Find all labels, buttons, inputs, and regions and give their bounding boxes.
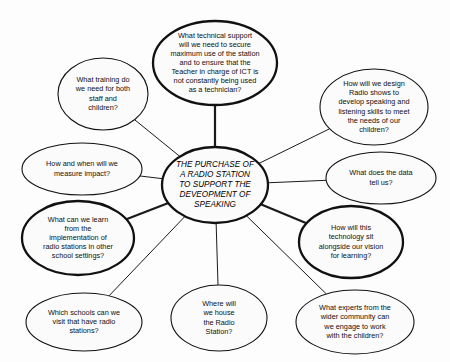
node-radio-show-design[interactable]: How will we designRadio shows todevelop … — [320, 69, 428, 145]
node-measure-impact[interactable]: How and when will wemeasure impact? — [22, 143, 142, 195]
node-visit-schools[interactable]: Which schools can wevisit that have radi… — [26, 293, 142, 351]
node-training[interactable]: What training dowe need for bothstaff an… — [58, 58, 148, 130]
node-house-station[interactable]: Where willwe housethe RadioStation? — [171, 285, 267, 351]
node-label-community-experts: What experts from thewider community can… — [319, 303, 391, 339]
node-label-other-school-settings: What can we learnfrom theimplementation … — [43, 215, 113, 260]
connector-center-to-house-station — [216, 223, 218, 285]
node-label-house-station: Where willwe housethe RadioStation? — [202, 299, 236, 335]
node-technology-vision[interactable]: How will thistechnology sitalongside our… — [299, 206, 403, 278]
connector-center-to-training — [135, 120, 180, 157]
node-center[interactable]: THE PURCHASE OFA RADIO STATIONTO SUPPORT… — [162, 147, 268, 223]
node-technical-support[interactable]: What technical supportwill we need to se… — [153, 21, 277, 105]
node-label-technical-support: What technical supportwill we need to se… — [170, 31, 259, 95]
node-community-experts[interactable]: What experts from thewider community can… — [296, 290, 414, 354]
connector-center-to-radio-show-design — [259, 129, 330, 164]
node-layer: What technical supportwill we need to se… — [22, 21, 436, 354]
mind-map-diagram: What technical supportwill we need to se… — [0, 0, 450, 362]
connector-center-to-other-school-settings — [126, 203, 168, 219]
node-other-school-settings[interactable]: What can we learnfrom theimplementation … — [22, 201, 134, 275]
connector-center-to-data-tell-us — [268, 180, 326, 182]
connector-center-to-technology-vision — [261, 204, 307, 223]
node-label-measure-impact: How and when will wemeasure impact? — [46, 159, 118, 177]
connector-center-to-measure-impact — [140, 176, 163, 179]
node-data-tell-us[interactable]: What does the datatell us? — [326, 152, 436, 204]
